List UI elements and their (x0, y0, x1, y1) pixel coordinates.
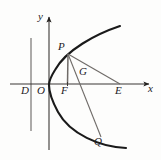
segment-pf (68, 54, 69, 84)
parabola-figure: D O F G E P Q x y (0, 0, 161, 160)
point-label-E: E (115, 85, 122, 96)
point-label-O: O (37, 85, 45, 96)
point-label-P: P (58, 41, 65, 52)
point-label-F: F (61, 85, 68, 96)
point-label-G: G (79, 66, 87, 77)
figure-canvas (0, 0, 161, 160)
segment-pe (68, 54, 120, 84)
point-label-Q: Q (94, 136, 102, 147)
x-axis-label: x (148, 83, 153, 94)
y-axis-label: y (38, 11, 43, 22)
point-label-D: D (21, 85, 29, 96)
